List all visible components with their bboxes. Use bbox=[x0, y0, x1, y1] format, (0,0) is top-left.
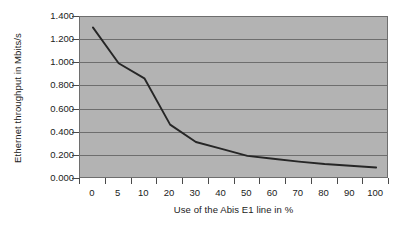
x-axis-tick-mark bbox=[337, 178, 338, 184]
x-axis-tick-label: 100 bbox=[355, 187, 395, 198]
x-axis-tick-mark bbox=[388, 178, 389, 184]
y-axis-tick-mark bbox=[72, 178, 79, 179]
y-axis-tick-label: 1.400 bbox=[34, 11, 74, 21]
x-axis-tick-mark bbox=[362, 178, 363, 184]
y-axis-tick-label: 0.200 bbox=[34, 150, 74, 160]
series-layer bbox=[80, 17, 387, 177]
plot-area bbox=[79, 16, 388, 178]
y-axis-tick-label: 1.000 bbox=[34, 57, 74, 67]
y-axis-tick-mark bbox=[72, 39, 79, 40]
x-axis-tick-mark bbox=[79, 178, 80, 184]
x-axis-tick-mark bbox=[156, 178, 157, 184]
throughput-line-series bbox=[80, 17, 388, 178]
y-axis-tick-label: 1.200 bbox=[34, 34, 74, 44]
x-axis-title: Use of the Abis E1 line in % bbox=[79, 204, 388, 215]
x-axis-tick-mark bbox=[234, 178, 235, 184]
y-axis-tick-label: 0.800 bbox=[34, 80, 74, 90]
y-axis-tick-mark bbox=[72, 16, 79, 17]
y-axis-tick-mark bbox=[72, 62, 79, 63]
y-axis-tick-mark bbox=[72, 109, 79, 110]
chart-figure: Ethernet throughput in Mbits/s 0.0000.20… bbox=[0, 0, 411, 229]
throughput-line-path bbox=[93, 27, 376, 167]
x-axis-tick-mark bbox=[182, 178, 183, 184]
y-axis-tick-mark bbox=[72, 132, 79, 133]
x-axis-tick-mark bbox=[131, 178, 132, 184]
y-axis-tick-label: 0.600 bbox=[34, 104, 74, 114]
y-axis-tick-label: 0.000 bbox=[34, 173, 74, 183]
x-axis-tick-mark bbox=[105, 178, 106, 184]
y-axis-title: Ethernet throughput in Mbits/s bbox=[9, 3, 27, 193]
y-axis-tick-mark bbox=[72, 85, 79, 86]
y-axis-tick-label: 0.400 bbox=[34, 127, 74, 137]
x-axis-tick-mark bbox=[259, 178, 260, 184]
x-axis-tick-mark bbox=[208, 178, 209, 184]
x-axis-tick-mark bbox=[285, 178, 286, 184]
y-axis-tick-mark bbox=[72, 155, 79, 156]
x-axis-tick-mark bbox=[311, 178, 312, 184]
